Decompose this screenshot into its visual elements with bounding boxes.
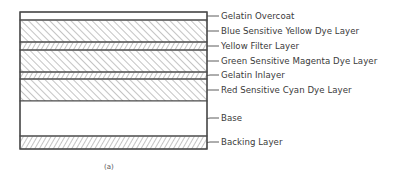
- label-gelatin-inlayer: Gelatin Inlayer: [221, 70, 285, 80]
- layer-base: [20, 101, 207, 136]
- label-backing-layer: Backing Layer: [221, 137, 283, 147]
- leader-line-backing-layer: [207, 142, 219, 143]
- layer-gelatin-inlayer: [20, 72, 207, 79]
- label-red-sensitive-cyan-dye: Red Sensitive Cyan Dye Layer: [221, 85, 352, 95]
- film-layer-diagram: Gelatin OvercoatBlue Sensitive Yellow Dy…: [0, 0, 397, 180]
- layer-backing-layer: [20, 136, 207, 149]
- label-blue-sensitive-yellow-dye: Blue Sensitive Yellow Dye Layer: [221, 26, 359, 36]
- leader-line-gelatin-inlayer: [207, 75, 219, 76]
- layer-green-sensitive-magenta-dye: [20, 50, 207, 72]
- layer-blue-sensitive-yellow-dye: [20, 20, 207, 42]
- leader-line-base: [207, 118, 219, 119]
- layer-yellow-filter: [20, 42, 207, 50]
- label-base: Base: [221, 113, 242, 123]
- label-green-sensitive-magenta-dye: Green Sensitive Magenta Dye Layer: [221, 56, 377, 66]
- layer-gelatin-overcoat: [20, 12, 207, 20]
- layer-red-sensitive-cyan-dye: [20, 79, 207, 101]
- figure-caption: (a): [104, 163, 114, 171]
- label-yellow-filter: Yellow Filter Layer: [221, 41, 299, 51]
- label-gelatin-overcoat: Gelatin Overcoat: [221, 11, 294, 21]
